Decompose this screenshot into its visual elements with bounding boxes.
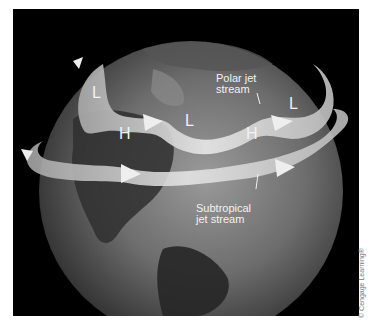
low-pressure-label: L <box>185 113 194 129</box>
subtropical-jet-caption-line2: jet stream <box>196 214 251 225</box>
copyright-notice: © Cengage Learning® <box>358 248 365 318</box>
polar-arrowhead-north <box>73 57 83 69</box>
globe-illustration <box>13 9 359 316</box>
subtropical-jet-caption: Subtropical jet stream <box>196 203 251 225</box>
low-pressure-label: L <box>289 96 298 112</box>
high-pressure-label: H <box>246 126 258 142</box>
low-pressure-label: L <box>92 85 101 101</box>
polar-jet-caption-line2: stream <box>216 84 256 95</box>
figure-frame: L H L H L Polar jet stream Subtropical j… <box>13 9 359 316</box>
high-pressure-label: H <box>119 126 131 142</box>
polar-jet-caption: Polar jet stream <box>216 73 256 95</box>
